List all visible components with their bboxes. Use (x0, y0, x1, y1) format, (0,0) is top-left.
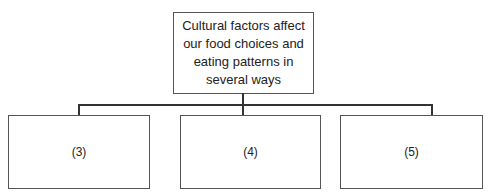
child-4-label: (4) (243, 145, 258, 159)
horizontal-connector-line (78, 104, 432, 106)
root-label: Cultural factors affect our food choices… (182, 17, 305, 89)
child-box-4: (4) (180, 115, 321, 189)
child-3-label: (3) (72, 145, 87, 159)
child-box-5: (5) (340, 115, 483, 189)
child-box-3: (3) (8, 115, 150, 189)
child-5-label: (5) (404, 145, 419, 159)
root-box: Cultural factors affect our food choices… (173, 12, 314, 94)
